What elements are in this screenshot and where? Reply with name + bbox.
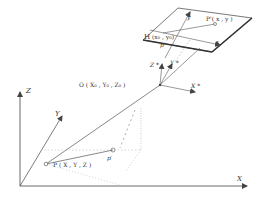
ground-point-marker	[44, 162, 48, 166]
principal-point-label: (x₀ , y₀)	[152, 34, 174, 40]
projection-center-label: O ( X₀ , Y₀ , Z₀ )	[79, 82, 125, 88]
image-point-alt-label: p'	[160, 42, 166, 48]
image-axis-x-label: x	[216, 39, 219, 45]
ground-axis-x-label: X	[237, 176, 242, 183]
image-point-label: P'( x , y )	[206, 16, 233, 22]
star-axis-x-label: X *	[191, 83, 200, 89]
star-axis-y-label: Y *	[170, 60, 179, 66]
ground-point-label: P ( X , Y , Z )	[53, 162, 91, 168]
ground-axis-z-label: Z	[26, 88, 31, 95]
ground-point-alt-label: p′	[107, 155, 112, 161]
ground-axes	[20, 92, 247, 186]
collinearity-diagram	[0, 0, 258, 199]
projection-center-marker	[159, 84, 161, 86]
image-axis-y-label: y	[187, 14, 190, 20]
dashed-guides	[44, 108, 141, 185]
image-plane-label: H	[144, 34, 150, 41]
star-axis-z-label: Z *	[150, 62, 159, 68]
ground-axis-y-label: Y	[55, 111, 60, 118]
